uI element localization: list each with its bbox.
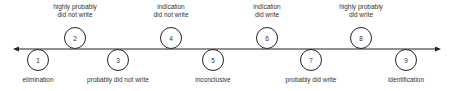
scale-point-label: probably did write bbox=[286, 76, 337, 84]
scale-point-number: 7 bbox=[309, 57, 313, 64]
scale-point-label: highly probably did not write bbox=[53, 3, 97, 19]
scale-point-label: probably did not write bbox=[87, 76, 149, 84]
scale-point-number: 4 bbox=[169, 35, 173, 42]
scale-point-number: 3 bbox=[116, 57, 120, 64]
scale-point-label: highly probably did write bbox=[339, 3, 383, 19]
scale-point-number: 1 bbox=[36, 57, 40, 64]
arrow-right-icon bbox=[435, 47, 441, 52]
scale-point-label: elimination bbox=[22, 76, 53, 84]
scale-point-label: indication did not write bbox=[153, 3, 188, 19]
scale-point-number: 9 bbox=[404, 57, 408, 64]
scale-point-number: 2 bbox=[73, 35, 77, 42]
scale-point-number: 8 bbox=[359, 35, 363, 42]
scale-point-label: inconclusive bbox=[195, 76, 230, 84]
scale-point-number: 6 bbox=[265, 35, 269, 42]
scale-point-label: identification bbox=[388, 76, 424, 84]
arrow-left-icon bbox=[13, 47, 19, 52]
scale-point-number: 5 bbox=[211, 57, 215, 64]
scale-point-label: indication did write bbox=[253, 3, 280, 19]
